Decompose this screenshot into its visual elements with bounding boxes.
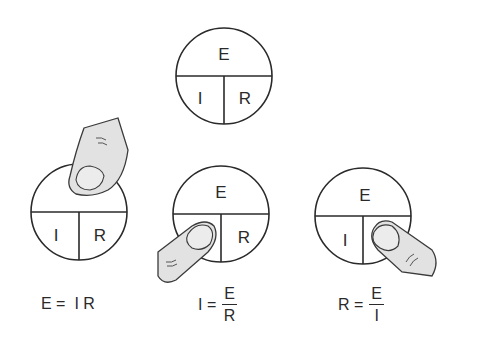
ohms-law-diagram-canvas xyxy=(0,0,478,338)
formula-r-lhs: R = xyxy=(338,297,363,313)
finger-covering-r-icon xyxy=(372,221,436,276)
main-label-i: I xyxy=(198,90,203,107)
finger-covering-e-icon xyxy=(69,118,128,195)
formula-i-numerator: E xyxy=(222,286,237,305)
solve-i-label-r: R xyxy=(238,229,250,246)
solve-i-label-e: E xyxy=(215,184,226,201)
solve-r-label-i: I xyxy=(343,232,348,249)
formula-r-fraction: E I xyxy=(369,286,384,324)
formula-i-denominator: R xyxy=(224,305,236,324)
main-label-e: E xyxy=(218,46,229,63)
main-circle xyxy=(176,28,272,124)
solve-e-label-i: I xyxy=(54,227,59,244)
solve-r-label-e: E xyxy=(359,187,370,204)
formula-r-numerator: E xyxy=(369,286,384,305)
formula-r-denominator: I xyxy=(374,305,378,324)
formula-r: R = E I xyxy=(338,286,384,324)
main-label-r: R xyxy=(239,90,251,107)
solve-e-label-r: R xyxy=(94,227,106,244)
formula-e-lhs: E = xyxy=(41,296,65,312)
formula-i: I = E R xyxy=(198,286,237,324)
finger-covering-i-icon xyxy=(158,222,216,282)
formula-i-lhs: I = xyxy=(198,297,216,313)
formula-i-fraction: E R xyxy=(222,286,237,324)
formula-e-rhs: I R xyxy=(74,296,94,312)
formula-e: E = I R xyxy=(41,296,95,312)
